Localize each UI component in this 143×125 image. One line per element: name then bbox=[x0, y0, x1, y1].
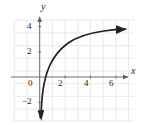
grid-lines bbox=[14, 20, 134, 121]
chart-figure: 4 2 −2 0 2 4 6 y x bbox=[0, 0, 143, 125]
x-tick-label-6: 6 bbox=[109, 79, 114, 88]
origin-label: 0 bbox=[28, 79, 33, 88]
y-tick-label-2: 2 bbox=[27, 47, 32, 56]
curve-series-0 bbox=[41, 29, 126, 117]
chart-plot-area bbox=[0, 0, 143, 125]
x-tick-label-2: 2 bbox=[58, 79, 63, 88]
curve-lower-arrowhead bbox=[38, 110, 45, 121]
x-tick-label-4: 4 bbox=[84, 79, 89, 88]
y-axis-label: y bbox=[41, 2, 45, 12]
y-tick-label-neg-2: −2 bbox=[22, 97, 32, 106]
x-axis-label: x bbox=[131, 66, 135, 76]
y-tick-label-4: 4 bbox=[27, 22, 32, 31]
